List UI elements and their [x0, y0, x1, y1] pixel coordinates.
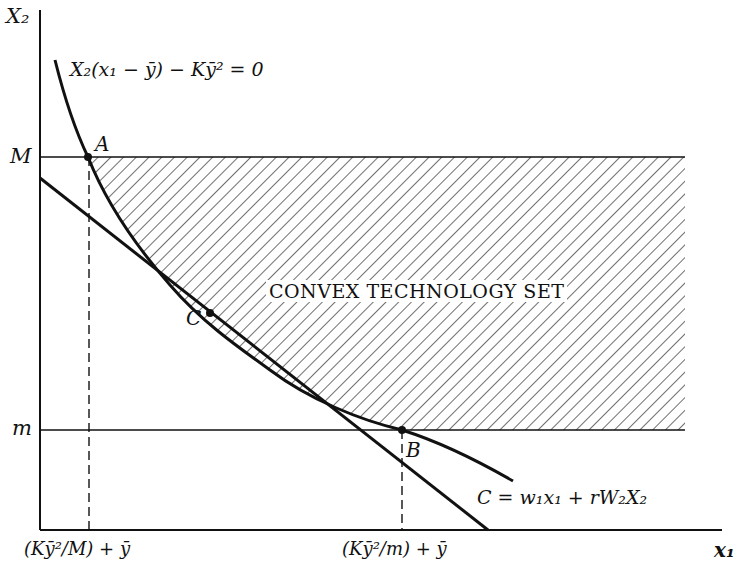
y-axis-label: X₂	[6, 4, 29, 28]
point-A-marker	[84, 153, 92, 161]
point-C-label: C	[186, 306, 201, 330]
y-tick-M: M	[10, 144, 32, 168]
point-B-label: B	[406, 438, 421, 462]
point-C-marker	[206, 309, 214, 317]
region-label: CONVEX TECHNOLOGY SET	[266, 280, 567, 302]
isocost-equation-label: C = w₁x₁ + rW₂X₂	[477, 486, 647, 508]
x-axis-label: x₁	[714, 538, 735, 562]
point-B-marker	[398, 426, 406, 434]
x-tick-A: (Kȳ²/M) + ȳ	[24, 538, 130, 559]
isoquant-equation-label: X₂(x₁ − ȳ) − Kȳ² = 0	[70, 58, 264, 80]
point-A-label: A	[95, 132, 109, 156]
x-tick-B: (Kȳ²/m) + ȳ	[342, 538, 447, 559]
y-tick-m: m	[12, 416, 32, 440]
